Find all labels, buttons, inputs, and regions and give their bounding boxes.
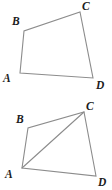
geometry-canvas: A B C D A B C D (0, 0, 112, 190)
figure-bottom-group: A B C D (4, 100, 107, 188)
figure-top-vertex-label-c: C (82, 0, 90, 12)
figure-top-group: A B C D (2, 0, 105, 91)
figure-top-quadrilateral (20, 12, 93, 78)
figure-top-vertex-label-b: B (11, 15, 20, 27)
figure-top-vertex-label-d: D (95, 79, 105, 91)
figure-bottom-vertex-label-c: C (86, 100, 94, 112)
figure-bottom-vertex-label-b: B (15, 113, 24, 125)
figure-bottom-vertex-label-d: D (97, 176, 107, 188)
figure-bottom-quadrilateral (22, 112, 96, 176)
geometry-figure-sheet: A B C D A B C D (0, 0, 112, 190)
figure-bottom-vertex-label-a: A (4, 168, 13, 180)
figure-top-vertex-label-a: A (2, 72, 11, 84)
